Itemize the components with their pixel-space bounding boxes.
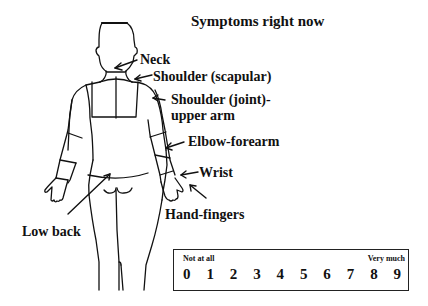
scale-value[interactable]: 5 bbox=[300, 266, 323, 283]
label-shoulder-scapular: Shoulder (scapular) bbox=[153, 69, 271, 84]
scale-value[interactable]: 8 bbox=[370, 266, 393, 283]
label-wrist: Wrist bbox=[199, 165, 233, 180]
head-outline bbox=[96, 23, 137, 72]
arrow-hand bbox=[190, 185, 206, 198]
label-upper-arm: upper arm bbox=[171, 108, 235, 123]
label-shoulder-joint: Shoulder (joint)- bbox=[171, 92, 271, 107]
scale-value[interactable]: 9 bbox=[394, 266, 417, 283]
scale-values: 0 1 2 3 4 5 6 7 8 9 bbox=[183, 266, 417, 283]
scale-value[interactable]: 4 bbox=[277, 266, 300, 283]
scale-value[interactable]: 7 bbox=[347, 266, 370, 283]
label-low-back: Low back bbox=[22, 224, 81, 239]
rating-scale: Not at all Very much 0 1 2 3 4 5 6 7 8 9 bbox=[173, 249, 409, 291]
scale-value[interactable]: 6 bbox=[323, 266, 346, 283]
label-neck: Neck bbox=[140, 52, 170, 67]
arrow-neck bbox=[115, 60, 137, 68]
scale-value[interactable]: 3 bbox=[253, 266, 276, 283]
scale-high-label: Very much bbox=[368, 254, 405, 263]
label-hand-fingers: Hand-fingers bbox=[165, 207, 244, 222]
label-elbow-forearm: Elbow-forearm bbox=[188, 134, 280, 149]
scale-low-label: Not at all bbox=[183, 254, 215, 263]
scale-value[interactable]: 1 bbox=[206, 266, 229, 283]
scale-value[interactable]: 0 bbox=[183, 266, 206, 283]
scale-value[interactable]: 2 bbox=[230, 266, 253, 283]
